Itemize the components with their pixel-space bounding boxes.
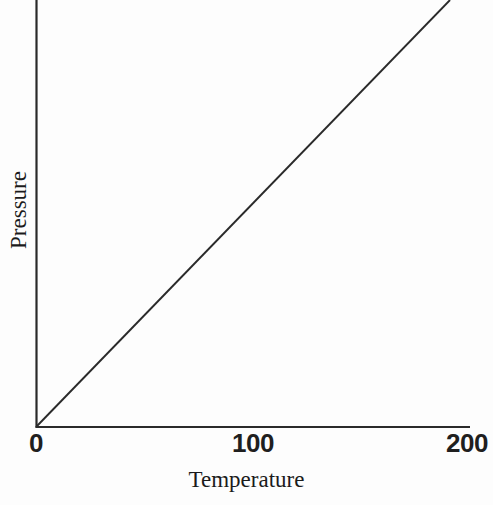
chart-figure: 0 100 200 Temperature Pressure (0, 0, 493, 505)
data-line-pressure (37, 0, 450, 426)
y-axis-title-wrapper: Pressure (0, 130, 36, 290)
y-axis-title: Pressure (7, 171, 30, 249)
x-axis-title: Temperature (0, 468, 493, 491)
x-tick-label-100: 100 (232, 430, 274, 456)
x-tick-label-0: 0 (29, 430, 43, 456)
x-tick-label-200: 200 (446, 430, 488, 456)
